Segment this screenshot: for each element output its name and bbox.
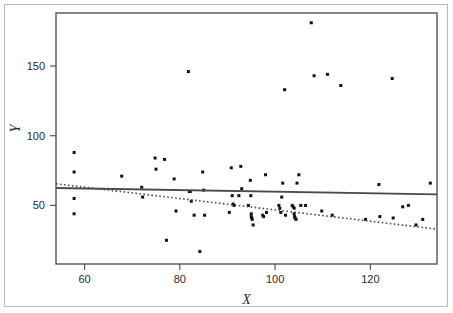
data-point: [73, 197, 76, 200]
data-point: [230, 166, 233, 169]
x-tick-label-60: 60: [78, 273, 90, 285]
data-point: [73, 170, 76, 173]
data-point: [284, 214, 287, 217]
data-point: [295, 218, 298, 221]
data-point: [283, 88, 286, 91]
data-point: [320, 210, 323, 213]
data-point: [295, 182, 298, 185]
data-point: [73, 212, 76, 215]
data-point: [249, 194, 252, 197]
data-point: [407, 204, 410, 207]
data-point: [155, 168, 158, 171]
data-point: [198, 250, 201, 253]
data-point: [251, 218, 254, 221]
scatter-plot-figure: 6080100120 50100150 XY: [0, 0, 453, 313]
fit-lines: [56, 184, 437, 229]
data-point: [264, 173, 267, 176]
data-point: [339, 84, 342, 87]
data-point: [429, 182, 432, 185]
y-tick-label-150: 150: [27, 60, 45, 72]
data-point: [201, 170, 204, 173]
data-points: [73, 21, 432, 253]
data-point: [250, 212, 253, 215]
data-point: [326, 73, 329, 76]
ols-fit-line: [56, 188, 437, 194]
y-axis-title: Y: [8, 122, 23, 132]
data-point: [228, 211, 231, 214]
data-point: [401, 205, 404, 208]
data-point: [252, 223, 255, 226]
data-point: [293, 207, 296, 210]
data-point: [280, 196, 283, 199]
y-tick-label-100: 100: [27, 130, 45, 142]
data-point: [377, 183, 380, 186]
data-point: [279, 211, 282, 214]
data-point: [73, 151, 76, 154]
plot-frame: [56, 13, 437, 264]
x-tick-label-80: 80: [174, 273, 186, 285]
data-point: [299, 204, 302, 207]
data-point: [163, 158, 166, 161]
data-point: [310, 21, 313, 24]
x-axis-title: X: [241, 292, 251, 307]
data-point: [378, 215, 381, 218]
data-point: [240, 187, 243, 190]
data-point: [421, 218, 424, 221]
data-point: [193, 214, 196, 217]
data-point: [262, 215, 265, 218]
data-point: [239, 165, 242, 168]
data-point: [297, 173, 300, 176]
plot-border: [56, 13, 437, 264]
data-point: [392, 216, 395, 219]
data-point: [278, 207, 281, 210]
data-point: [140, 186, 143, 189]
y-tick-label-50: 50: [33, 199, 45, 211]
data-point: [304, 204, 307, 207]
data-point: [391, 77, 394, 80]
data-point: [265, 211, 268, 214]
data-point: [165, 239, 168, 242]
data-point: [141, 196, 144, 199]
x-axis-ticks: 6080100120: [78, 264, 379, 285]
x-tick-label-100: 100: [266, 273, 284, 285]
y-axis-ticks: 50100150: [27, 60, 56, 211]
data-point: [237, 194, 240, 197]
data-point: [231, 194, 234, 197]
data-point: [154, 157, 157, 160]
x-tick-label-120: 120: [361, 273, 379, 285]
data-point: [187, 70, 190, 73]
data-point: [203, 214, 206, 217]
data-point: [281, 182, 284, 185]
axis-labels: XY: [8, 122, 251, 307]
data-point: [173, 177, 176, 180]
data-point: [313, 74, 316, 77]
data-point: [277, 204, 280, 207]
plot-canvas: 6080100120 50100150 XY: [0, 0, 453, 313]
data-point: [120, 175, 123, 178]
data-point: [175, 210, 178, 213]
data-point: [249, 179, 252, 182]
